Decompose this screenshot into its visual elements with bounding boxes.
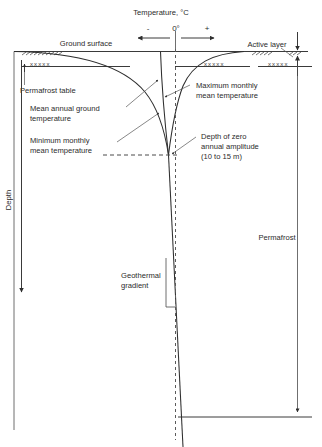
maximum-monthly-mean-temperature-label-line1: Maximum monthly xyxy=(196,81,258,90)
ground-surface-label: Ground surface xyxy=(60,39,112,48)
geothermal-gradient-label-line1: Geothermal xyxy=(121,271,161,280)
permafrost-table-xmarks-left: xxxxx xyxy=(30,61,51,67)
ground-surface-hatching-right xyxy=(252,52,301,55)
mean-annual-ground-temperature-curve xyxy=(161,52,169,156)
permafrost-table-xmarks-right: xxxxx xyxy=(268,61,289,67)
permafrost-label: Permafrost xyxy=(258,233,296,242)
maximum-monthly-mean-temperature-label-line2: mean temperature xyxy=(196,91,258,100)
permafrost-table-label: Permafrost table xyxy=(20,86,76,95)
minimum-monthly-mean-temperature-label-line1: Minimum monthly xyxy=(30,136,90,145)
mean-annual-ground-temperature-leader xyxy=(126,80,158,107)
mean-annual-ground-temperature-label-line1: Mean annual ground xyxy=(30,104,100,113)
temperature-negative-sign: - xyxy=(147,24,150,33)
geothermal-gradient-label-line2: gradient xyxy=(121,281,149,290)
active-layer-label: Active layer xyxy=(247,40,287,49)
temperature-axis-title: Temperature, °C xyxy=(133,8,189,17)
permafrost-table-xmarks-mid: xxxxx xyxy=(204,61,225,67)
zero-amplitude-label-line1: Depth of zero xyxy=(201,132,247,141)
permafrost-temperature-diagram: Temperature, °C - 0° + Ground surface xyxy=(0,0,322,447)
depth-axis-label: Depth xyxy=(4,190,13,210)
zero-amplitude-label-line3: (10 to 15 m) xyxy=(201,152,242,161)
minimum-monthly-mean-temperature-label-line2: mean temperature xyxy=(30,146,92,155)
minimum-monthly-leader xyxy=(117,113,159,142)
temperature-zero-label: 0° xyxy=(172,24,180,33)
temperature-positive-sign: + xyxy=(205,24,210,33)
zero-amplitude-label-line2: annual amplitude xyxy=(201,142,259,151)
figure-canvas: Temperature, °C - 0° + Ground surface xyxy=(0,0,322,447)
maximum-monthly-leader xyxy=(165,85,190,97)
mean-annual-ground-temperature-label-line2: temperature xyxy=(30,114,71,123)
active-layer-leader xyxy=(281,48,293,57)
